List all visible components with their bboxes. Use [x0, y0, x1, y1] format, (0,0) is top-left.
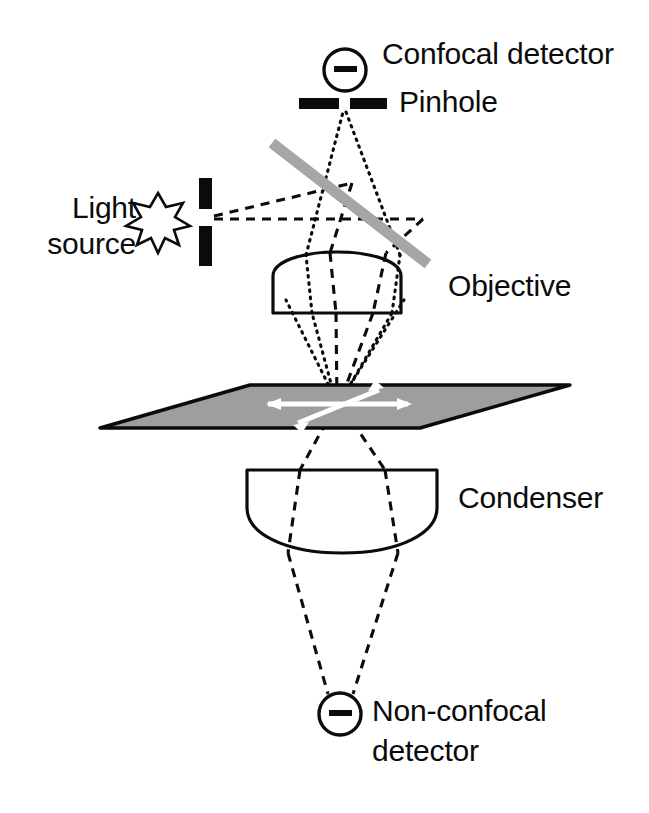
non-confocal-detector: [319, 693, 361, 735]
label-condenser: Condenser: [458, 480, 603, 516]
objective-lens-body: [273, 252, 401, 313]
label-pinhole: Pinhole: [399, 84, 498, 120]
confocal-detector: [324, 49, 366, 91]
condenser-lens: [247, 470, 437, 553]
label-light-source-line2: source: [6, 226, 136, 262]
diagram-canvas: [0, 0, 649, 813]
pinhole-bar-left: [299, 98, 339, 109]
label-objective: Objective: [448, 268, 571, 304]
ray-condenser-body-right: [385, 470, 398, 553]
confocal-detector-bar: [334, 66, 357, 72]
ray-condenser-to-detector-right: [353, 553, 398, 694]
beamsplitter-bar: [272, 143, 428, 264]
ray-objective-body-left: [330, 253, 336, 313]
illumination-ray-path: [214, 183, 423, 694]
label-light-source-line1: Light: [6, 190, 136, 226]
confocal-microscope-diagram: Confocal detector Pinhole Light source O…: [0, 0, 649, 813]
label-confocal-detector: Confocal detector: [382, 36, 614, 72]
source-slit-bar-bottom: [199, 226, 212, 266]
label-non-confocal-detector-line2: detector: [372, 733, 479, 769]
ray-condenser-body-left: [288, 470, 300, 553]
objective-lens: [273, 252, 401, 313]
beamsplitter: [272, 143, 428, 264]
source-slit-bar-top: [199, 178, 212, 209]
source-slit-aperture: [199, 178, 212, 266]
pinhole-bar-right: [350, 98, 387, 109]
ray-condenser-to-detector-left: [288, 553, 328, 694]
ray-objective-body-left-dot: [306, 255, 312, 313]
label-non-confocal-detector-line1: Non-confocal: [372, 693, 546, 729]
pinhole-aperture: [299, 98, 387, 109]
ray-objective-body-right: [373, 253, 386, 313]
condenser-lens-body: [247, 470, 437, 553]
non-confocal-detector-bar: [329, 710, 352, 716]
